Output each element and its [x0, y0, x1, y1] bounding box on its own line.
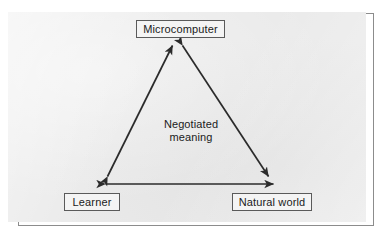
- node-microcomputer[interactable]: Microcomputer: [136, 20, 225, 38]
- node-microcomputer-label: Microcomputer: [143, 24, 218, 35]
- negotiated-meaning-line-2: meaning: [143, 131, 239, 144]
- negotiated-meaning-label: Negotiated meaning: [143, 118, 239, 144]
- node-learner-label: Learner: [73, 197, 112, 208]
- node-natural-world[interactable]: Natural world: [232, 193, 312, 211]
- connector-microcomputer-natural-world: [183, 46, 269, 177]
- connector-learner-microcomputer: [108, 46, 173, 177]
- node-learner[interactable]: Learner: [64, 193, 120, 211]
- node-natural-world-label: Natural world: [239, 197, 306, 208]
- negotiated-meaning-line-1: Negotiated: [164, 118, 218, 130]
